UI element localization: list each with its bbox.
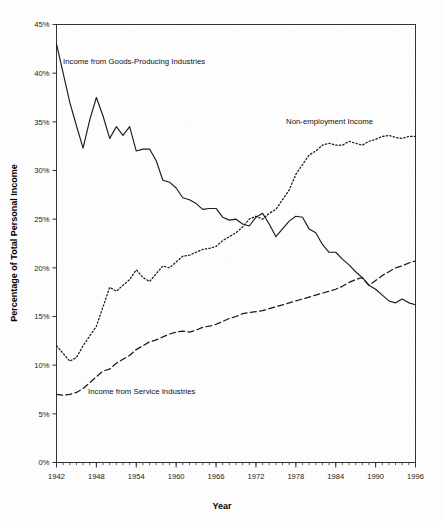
y-tick-label: 35% <box>34 118 49 127</box>
x-tick-label: 1954 <box>128 472 145 481</box>
chart-background <box>0 0 444 521</box>
x-tick-label: 1966 <box>208 472 225 481</box>
annotation-non-employment: Non-employment Income <box>286 117 373 126</box>
x-tick-label: 1978 <box>287 472 304 481</box>
line-chart: 0%5%10%15%20%25%30%35%40%45% 19421948195… <box>0 0 444 521</box>
y-tick-label: 10% <box>34 361 49 370</box>
y-tick-label: 15% <box>34 312 49 321</box>
x-tick-label: 1990 <box>367 472 384 481</box>
y-tick-label: 30% <box>34 166 49 175</box>
y-tick-label: 20% <box>34 264 49 273</box>
annotation-service-industries: Income from Service Industries <box>88 387 196 396</box>
y-tick-label: 25% <box>34 215 49 224</box>
x-tick-label: 1942 <box>48 472 65 481</box>
x-tick-label: 1948 <box>88 472 105 481</box>
x-tick-label: 1984 <box>327 472 344 481</box>
x-tick-label: 1960 <box>168 472 185 481</box>
x-tick-label: 1996 <box>407 472 424 481</box>
x-axis-title: Year <box>212 501 232 511</box>
y-tick-label: 40% <box>34 69 49 78</box>
y-tick-label: 5% <box>39 410 50 419</box>
y-tick-label: 0% <box>39 458 50 467</box>
chart-container: 0%5%10%15%20%25%30%35%40%45% 19421948195… <box>0 0 444 521</box>
annotation-goods-producing: Income from Goods-Producing Industries <box>63 57 205 66</box>
y-axis-title: Percentage of Total Personal Income <box>9 164 19 321</box>
x-tick-label: 1972 <box>247 472 264 481</box>
y-tick-label: 45% <box>34 20 49 29</box>
